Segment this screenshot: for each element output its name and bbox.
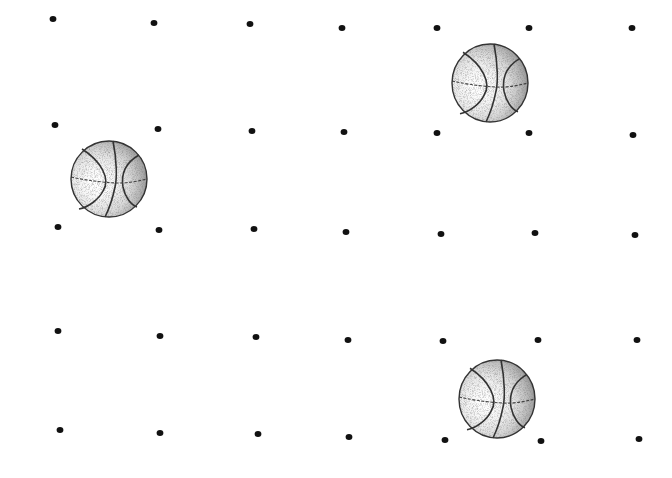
- basketball-top-right-icon: [452, 44, 528, 122]
- basketballs-layer: [0, 0, 672, 478]
- basketball-bottom-right-icon: [459, 360, 535, 438]
- basketball-middle-left-icon: [71, 141, 147, 217]
- dot-grid-canvas: [0, 0, 672, 478]
